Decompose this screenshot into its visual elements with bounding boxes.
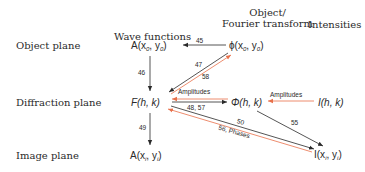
edge-label-46: 46 [138, 69, 145, 76]
arrow-55 [257, 111, 323, 146]
edge-label-55: 55 [291, 119, 298, 126]
edge-label-58: 58 [202, 73, 209, 80]
edge-label-49: 49 [139, 124, 146, 131]
edge-label-48-57: 48, 57 [187, 104, 205, 111]
arrow-50 [171, 106, 314, 149]
edge-label-47: 47 [195, 61, 202, 68]
arrows-layer [0, 0, 365, 172]
edge-label-amplitudes-right: Amplitudes [270, 91, 302, 98]
edge-label-45: 45 [196, 37, 203, 44]
edge-label-amplitudes-top: Amplitudes [178, 88, 210, 95]
arrow-47 [169, 53, 228, 92]
